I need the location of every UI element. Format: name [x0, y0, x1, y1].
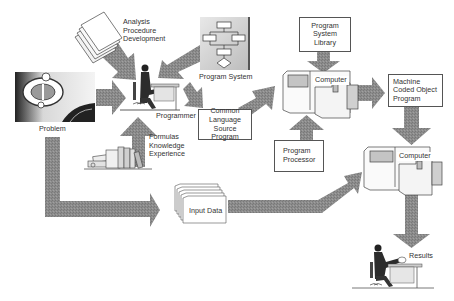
program-system-flowchart-icon: [200, 17, 250, 70]
label-results: Results: [409, 252, 433, 261]
box-source-program: Common Language Source Program: [198, 109, 252, 140]
label-computer-2: Computer: [397, 152, 433, 161]
arrow-computer-to-object: [357, 77, 385, 109]
box-object-program: Machine Coded Object Program: [388, 74, 443, 107]
input-cards-stack-icon: [175, 184, 226, 223]
processor-line-2: Processor: [283, 156, 323, 165]
box-program-system-library: Program System Library: [299, 17, 351, 52]
library-line-1: Program System: [300, 22, 350, 39]
source-program-line-3: Source Program: [199, 125, 251, 142]
label-analysis-line-3: Development: [123, 35, 165, 44]
label-programmer: Programmer: [156, 112, 196, 121]
label-analysis: Analysis Procedure Development: [123, 18, 165, 44]
diagram-canvas: [0, 0, 454, 301]
label-input-data: Input Data: [189, 207, 222, 216]
label-program-system: Program System: [199, 73, 253, 82]
arrow-input-to-computer2: [228, 172, 362, 213]
box-program-processor: Program Processor: [274, 140, 324, 172]
object-program-line-3: Program: [393, 95, 442, 104]
arrow-processor-to-computer: [289, 115, 324, 143]
problem-illustration-icon: [15, 72, 95, 122]
arrow-computer2-to-results: [393, 192, 430, 248]
label-formulas-line-3: Experience: [149, 150, 185, 159]
library-line-2: Library: [314, 39, 336, 48]
arrow-programmer-to-source: [183, 82, 203, 108]
arrow-library-to-computer: [307, 51, 340, 73]
label-formulas: Formulas Knowledge Experience: [149, 133, 185, 159]
label-computer-1: Computer: [313, 76, 349, 85]
arrow-object-to-computer2: [392, 107, 431, 145]
label-problem: Problem: [39, 125, 66, 134]
